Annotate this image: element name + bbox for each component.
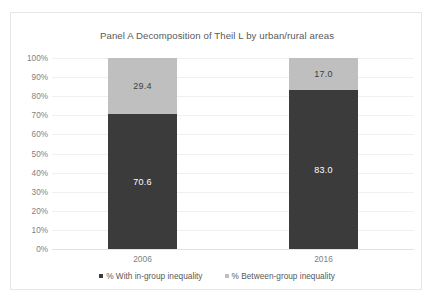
legend-item[interactable]: % Between-group inequality — [225, 271, 335, 281]
bar-segment[interactable]: 83.0 — [289, 90, 358, 249]
y-axis-tick-label: 20% — [11, 206, 48, 215]
gridline — [52, 77, 414, 78]
y-axis-tick-label: 30% — [11, 187, 48, 196]
bar-segment[interactable]: 29.4 — [108, 58, 177, 114]
x-axis-tick-label: 2016 — [233, 254, 414, 264]
plot-area: 70.629.483.017.0 — [52, 58, 414, 249]
y-axis-tick-label: 100% — [11, 54, 48, 63]
gridline — [52, 230, 414, 231]
y-axis-tick-label: 40% — [11, 168, 48, 177]
gridline — [52, 96, 414, 97]
y-axis-tick-label: 90% — [11, 73, 48, 82]
chart-legend: % With in-group inequality% Between-grou… — [11, 271, 423, 281]
y-axis: 100%90%80%70%60%50%40%30%20%10%0% — [11, 58, 48, 249]
legend-label: % With in-group inequality — [106, 271, 202, 281]
bar-group[interactable]: 83.017.0 — [289, 58, 358, 249]
x-axis-tick-label: 2006 — [52, 254, 233, 264]
bar-group[interactable]: 70.629.4 — [108, 58, 177, 249]
bar-stack: 83.017.0 — [289, 58, 358, 249]
legend-label: % Between-group inequality — [232, 271, 335, 281]
chart-title: Panel A Decomposition of Theil L by urba… — [11, 30, 423, 41]
bar-segment[interactable]: 70.6 — [108, 114, 177, 249]
chart-container: Panel A Decomposition of Theil L by urba… — [10, 12, 422, 290]
legend-swatch-icon — [99, 274, 103, 278]
gridline — [52, 173, 414, 174]
bar-value-label: 29.4 — [133, 81, 151, 91]
bar-value-label: 83.0 — [314, 165, 332, 175]
x-axis: 20062016 — [52, 254, 414, 268]
y-axis-tick-label: 60% — [11, 130, 48, 139]
legend-swatch-icon — [225, 274, 229, 278]
y-axis-tick-label: 70% — [11, 111, 48, 120]
y-axis-tick-label: 50% — [11, 149, 48, 158]
y-axis-tick-label: 0% — [11, 245, 48, 254]
gridline — [52, 154, 414, 155]
bar-stack: 70.629.4 — [108, 58, 177, 249]
gridline — [52, 134, 414, 135]
gridline — [52, 249, 414, 250]
bar-value-label: 70.6 — [133, 177, 151, 187]
y-axis-tick-label: 80% — [11, 92, 48, 101]
bar-value-label: 17.0 — [314, 69, 332, 79]
gridline — [52, 115, 414, 116]
legend-item[interactable]: % With in-group inequality — [99, 271, 202, 281]
gridline — [52, 192, 414, 193]
bar-segment[interactable]: 17.0 — [289, 58, 358, 90]
gridline — [52, 58, 414, 59]
gridline — [52, 211, 414, 212]
y-axis-tick-label: 10% — [11, 225, 48, 234]
